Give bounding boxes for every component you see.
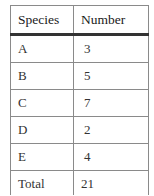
- number-cell: 5: [74, 63, 149, 90]
- table-row: C 7: [11, 90, 149, 117]
- total-label: Total: [11, 171, 74, 196]
- table-row: E 4: [11, 144, 149, 171]
- species-cell: E: [11, 144, 74, 171]
- total-value: 21: [74, 171, 149, 196]
- species-cell: D: [11, 117, 74, 144]
- number-cell: 3: [74, 35, 149, 63]
- table-row: D 2: [11, 117, 149, 144]
- table-row: B 5: [11, 63, 149, 90]
- header-number: Number: [74, 6, 149, 35]
- species-count-table: Species Number A 3 B 5 C 7 D 2 E 4 Total…: [10, 5, 149, 195]
- table-row: A 3: [11, 35, 149, 63]
- species-cell: B: [11, 63, 74, 90]
- header-species: Species: [11, 6, 74, 35]
- species-cell: C: [11, 90, 74, 117]
- total-row: Total 21: [11, 171, 149, 196]
- species-cell: A: [11, 35, 74, 63]
- number-cell: 4: [74, 144, 149, 171]
- number-cell: 7: [74, 90, 149, 117]
- number-cell: 2: [74, 117, 149, 144]
- header-row: Species Number: [11, 6, 149, 35]
